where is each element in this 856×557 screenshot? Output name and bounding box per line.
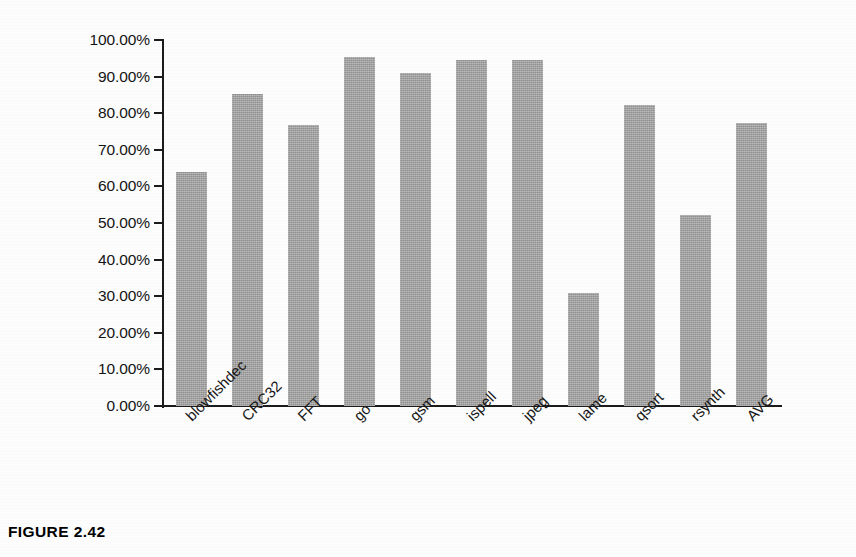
y-axis-tick [154, 368, 163, 370]
y-axis-tick [154, 76, 163, 78]
figure-caption: FIGURE 2.42 [8, 523, 105, 541]
y-axis-tick-label: 40.00% [0, 251, 150, 269]
y-axis-tick [154, 295, 163, 297]
y-axis-tick [154, 39, 163, 41]
y-axis-tick-label: 100.00% [0, 31, 150, 49]
y-axis-tick-label: 30.00% [0, 287, 150, 305]
y-axis-tick [154, 259, 163, 261]
bar [624, 105, 655, 406]
y-axis-tick [154, 149, 163, 151]
y-axis-tick-label: 0.00% [0, 397, 150, 415]
bar [736, 123, 767, 406]
bar [568, 293, 599, 406]
bar [680, 215, 711, 406]
bar [288, 125, 319, 406]
bar-chart-figure: 0.00%10.00%20.00%30.00%40.00%50.00%60.00… [0, 0, 856, 557]
y-axis-tick-label: 70.00% [0, 141, 150, 159]
y-axis-tick-label: 60.00% [0, 177, 150, 195]
y-axis-tick [154, 222, 163, 224]
y-axis-tick [154, 112, 163, 114]
y-axis-tick-label: 10.00% [0, 360, 150, 378]
y-axis-tick-label: 90.00% [0, 68, 150, 86]
y-axis-tick-label: 20.00% [0, 324, 150, 342]
y-axis-tick-label: 50.00% [0, 214, 150, 232]
y-axis-tick [154, 332, 163, 334]
y-axis-tick-label: 80.00% [0, 104, 150, 122]
y-axis-tick [154, 185, 163, 187]
y-axis-tick [154, 405, 163, 407]
bar [176, 172, 207, 406]
y-axis-labels: 0.00%10.00%20.00%30.00%40.00%50.00%60.00… [0, 0, 150, 557]
x-axis-labels: blowfishdecCRC32FFTgogsmispelljpeglameqs… [163, 0, 783, 145]
